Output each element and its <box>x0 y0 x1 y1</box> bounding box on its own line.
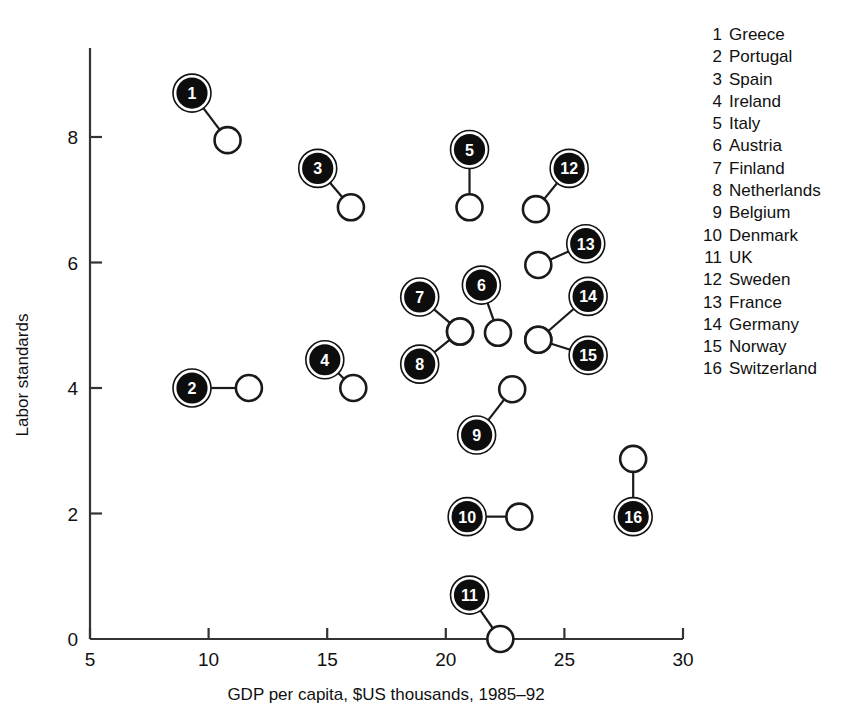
legend-item: 5Italy <box>700 113 864 135</box>
legend-item-label: Belgium <box>729 202 790 224</box>
legend-item-number: 6 <box>700 135 722 157</box>
legend-item: 13France <box>700 292 864 314</box>
legend-item-number: 12 <box>700 269 722 291</box>
legend-item-number: 16 <box>700 358 722 380</box>
legend-item-number: 1 <box>700 24 722 46</box>
legend-item-number: 7 <box>700 158 722 180</box>
marker-number: 13 <box>577 236 595 253</box>
legend: 1Greece2Portugal3Spain4Ireland5Italy6Aus… <box>700 24 864 381</box>
legend-item: 11UK <box>700 247 864 269</box>
open-marker[interactable] <box>525 327 551 353</box>
x-tick-label: 30 <box>672 649 693 670</box>
open-marker[interactable] <box>457 194 483 220</box>
data-point-ireland[interactable]: 4 <box>306 341 366 401</box>
marker-number: 14 <box>579 288 597 305</box>
legend-item: 7Finland <box>700 158 864 180</box>
x-tick-label: 25 <box>554 649 575 670</box>
legend-item: 15Norway <box>700 336 864 358</box>
marker-number: 11 <box>461 587 478 604</box>
marker-number: 16 <box>624 509 642 526</box>
marker-number: 6 <box>477 277 486 294</box>
connector-line <box>479 609 494 630</box>
legend-item: 3Spain <box>700 69 864 91</box>
connector-line <box>543 182 559 201</box>
open-marker[interactable] <box>447 319 473 345</box>
marker-number: 3 <box>313 160 322 177</box>
legend-item-label: Denmark <box>729 225 798 247</box>
connector-line <box>433 308 452 324</box>
legend-item-label: Italy <box>729 113 760 135</box>
legend-item-number: 2 <box>700 46 722 68</box>
legend-item-number: 3 <box>700 69 722 91</box>
open-marker[interactable] <box>485 320 511 346</box>
legend-item-number: 14 <box>700 314 722 336</box>
x-tick-label: 5 <box>85 649 96 670</box>
legend-item: 4Ireland <box>700 91 864 113</box>
legend-item: 14Germany <box>700 314 864 336</box>
marker-number: 10 <box>458 509 476 526</box>
legend-item: 2Portugal <box>700 46 864 68</box>
open-marker[interactable] <box>620 446 646 472</box>
legend-item: 12Sweden <box>700 269 864 291</box>
open-marker[interactable] <box>506 504 532 530</box>
data-point-france[interactable]: 13 <box>525 225 604 278</box>
open-marker[interactable] <box>487 626 513 652</box>
x-axis-label: GDP per capita, $US thousands, 1985–92 <box>227 685 544 704</box>
legend-item-label: Finland <box>729 158 785 180</box>
y-axis-label: Labor standards <box>13 314 32 437</box>
x-tick-label: 10 <box>198 649 219 670</box>
y-tick-label: 0 <box>67 629 78 650</box>
legend-item-number: 11 <box>700 247 722 269</box>
open-marker[interactable] <box>236 375 262 401</box>
data-points: 12345678910111213141516 <box>173 74 652 652</box>
connector-line <box>487 398 505 422</box>
legend-item-label: Sweden <box>729 269 790 291</box>
data-point-norway[interactable]: 15 <box>525 327 607 375</box>
legend-item-label: Ireland <box>729 91 781 113</box>
legend-item-number: 9 <box>700 202 722 224</box>
marker-number: 15 <box>579 347 597 364</box>
legend-item: 1Greece <box>700 24 864 46</box>
legend-item: 6Austria <box>700 135 864 157</box>
open-marker[interactable] <box>525 252 551 278</box>
connector-line <box>202 107 221 132</box>
open-marker[interactable] <box>340 375 366 401</box>
legend-item: 9Belgium <box>700 202 864 224</box>
connector-line <box>329 181 344 199</box>
y-tick-label: 2 <box>67 504 78 525</box>
legend-item-label: Switzerland <box>729 358 817 380</box>
marker-number: 7 <box>415 289 424 306</box>
marker-number: 4 <box>320 352 329 369</box>
x-tick-label: 15 <box>317 649 338 670</box>
legend-item-number: 4 <box>700 91 722 113</box>
legend-item-number: 10 <box>700 225 722 247</box>
marker-number: 1 <box>188 85 197 102</box>
legend-item-label: Germany <box>729 314 799 336</box>
connector-line <box>433 338 452 353</box>
x-tick-label: 20 <box>435 649 456 670</box>
connector-line <box>549 343 572 350</box>
marker-number: 12 <box>560 160 578 177</box>
legend-item-label: Norway <box>729 336 787 358</box>
legend-item-number: 13 <box>700 292 722 314</box>
legend-item-label: Portugal <box>729 46 792 68</box>
legend-item-number: 8 <box>700 180 722 202</box>
marker-number: 9 <box>472 427 481 444</box>
connector-line <box>547 308 576 333</box>
legend-item-label: Austria <box>729 135 782 157</box>
y-tick-label: 4 <box>67 378 78 399</box>
legend-item-label: Spain <box>729 69 772 91</box>
open-marker[interactable] <box>499 376 525 402</box>
chart-page: 5101520253002468 12345678910111213141516… <box>0 0 864 726</box>
marker-number: 2 <box>188 380 197 397</box>
legend-item-label: Netherlands <box>729 180 821 202</box>
legend-item-label: UK <box>729 247 753 269</box>
y-tick-label: 6 <box>67 253 78 274</box>
legend-item: 16Switzerland <box>700 358 864 380</box>
connector-line <box>487 301 494 322</box>
open-marker[interactable] <box>523 196 549 222</box>
legend-item-number: 15 <box>700 336 722 358</box>
legend-item-label: France <box>729 292 782 314</box>
open-marker[interactable] <box>215 127 241 153</box>
open-marker[interactable] <box>338 194 364 220</box>
